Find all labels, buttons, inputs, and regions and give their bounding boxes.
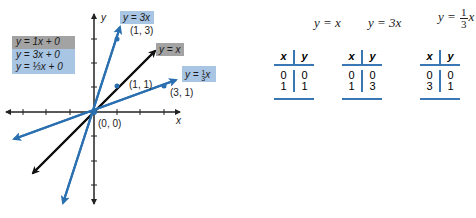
header-x: x <box>420 50 441 64</box>
x-axis-label: x <box>175 115 182 126</box>
point-1-3 <box>115 37 120 42</box>
fraction: 13 <box>460 7 468 30</box>
eq-lhs: y = <box>314 15 332 30</box>
point-origin <box>91 109 97 115</box>
equation-y-equals-3x: y = 3x <box>368 15 401 31</box>
table-y-equals-3x: xy 01 03 <box>342 50 382 100</box>
column-y: 01 <box>441 70 460 92</box>
legend-row-third-x: y = ⅓x + 0 <box>12 61 75 74</box>
cell: 1 <box>295 81 314 92</box>
point-label-1-3: (1, 3) <box>130 25 153 36</box>
column-x: 01 <box>274 70 295 92</box>
equation-y-equals-third-x: y = 13x <box>438 7 474 30</box>
eq-label-3x: y = 3x <box>122 12 151 23</box>
y-axis-label: y <box>100 12 107 23</box>
column-y: 03 <box>363 70 382 92</box>
column-x: 03 <box>420 70 441 92</box>
cell: 3 <box>420 81 439 92</box>
eq-rhs: x <box>469 9 475 24</box>
header-y: y <box>363 50 382 64</box>
legend-row-1x: y = 1x + 0 <box>12 36 75 49</box>
point-1-1 <box>115 84 120 89</box>
table-y-equals-x: xy 01 01 <box>274 50 314 100</box>
point-label-3-1: (3, 1) <box>170 87 193 98</box>
cell: 1 <box>441 81 460 92</box>
cell: 1 <box>274 81 293 92</box>
table-y-equals-third-x: xy 03 01 <box>420 50 460 100</box>
eq-lhs: y = <box>368 15 386 30</box>
point-label-1-1: (1, 1) <box>129 79 152 90</box>
column-x: 01 <box>342 70 363 92</box>
eq-label-x: y = x <box>158 44 181 55</box>
legend-row-3x: y = 3x + 0 <box>12 49 75 62</box>
equation-y-equals-x: y = x <box>314 15 341 31</box>
header-x: x <box>274 50 295 64</box>
header-y: y <box>295 50 314 64</box>
frac-den: 3 <box>460 19 468 30</box>
eq-lhs: y = <box>438 9 456 24</box>
origin-label: (0, 0) <box>98 118 121 129</box>
equation-legend: y = 1x + 0 y = 3x + 0 y = ⅓x + 0 <box>12 36 75 74</box>
cell: 3 <box>363 81 382 92</box>
header-x: x <box>342 50 363 64</box>
header-y: y <box>441 50 460 64</box>
value-tables: y = x y = 3x y = 13x <box>300 0 476 218</box>
eq-rhs: 3x <box>389 15 401 30</box>
eq-rhs: x <box>335 15 341 30</box>
coordinate-graph: y x (0, 0) y = 3x (1, 3) y = x (1, 1) y … <box>0 0 240 218</box>
point-3-1 <box>162 84 167 89</box>
cell: 1 <box>342 81 361 92</box>
column-y: 01 <box>295 70 314 92</box>
